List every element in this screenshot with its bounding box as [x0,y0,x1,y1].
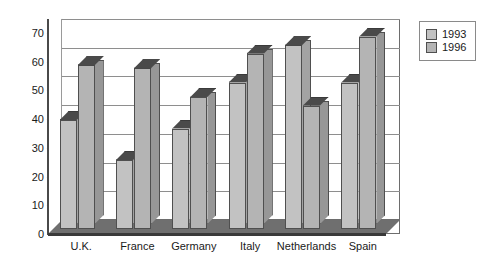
bar-front-face [285,45,302,229]
bars-layer [0,0,490,269]
legend-label-1996: 1996 [442,42,466,53]
legend: 1993 1996 [419,21,476,61]
bar-front-face [359,37,376,229]
bar-front-face [341,83,358,229]
bar-side-face [264,49,273,224]
bar-front-face [134,68,151,229]
bar-side-face [207,92,216,224]
bar-front-face [247,54,264,229]
bar-front-face [172,129,189,230]
bar-side-face [151,63,160,224]
bar-france-1996 [134,68,151,229]
legend-item-1993: 1993 [426,29,469,40]
bar-front-face [116,160,133,229]
bar-spain-1996 [359,37,376,229]
legend-swatch-1993 [426,29,437,40]
bar-chart: 010203040506070 U.K.FranceGermanyItalyNe… [0,0,490,269]
bar-france-1993 [116,160,133,229]
legend-label-1993: 1993 [442,29,466,40]
bar-side-face [95,60,104,224]
legend-item-1996: 1996 [426,42,469,53]
bar-netherlands-1996 [303,106,320,229]
bar-germany-1996 [190,97,207,229]
bar-italy-1996 [247,54,264,229]
bar-front-face [78,65,95,229]
bar-side-face [376,32,385,224]
bar-spain-1993 [341,83,358,229]
x-tick-label: Spain [325,240,401,252]
bar-uk-1993 [60,120,77,229]
bar-side-face [320,101,329,224]
bar-italy-1993 [229,83,246,229]
bar-germany-1993 [172,129,189,230]
legend-swatch-1996 [426,42,437,53]
bar-front-face [190,97,207,229]
bar-uk-1996 [78,65,95,229]
bar-netherlands-1993 [285,45,302,229]
bar-front-face [60,120,77,229]
bar-front-face [229,83,246,229]
bar-front-face [303,106,320,229]
